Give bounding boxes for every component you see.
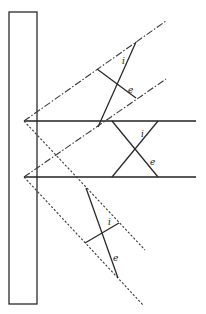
upper-label-e: e <box>128 85 133 95</box>
lower-dotted-ray-2 <box>24 177 143 305</box>
middle-label-e: e <box>150 157 155 167</box>
lower-dotted-ray-1 <box>24 121 145 250</box>
diagram-canvas: i e i e i e <box>0 0 206 314</box>
lower-label-i: i <box>108 217 111 227</box>
upper-dashdot-ray-2 <box>24 79 166 177</box>
lower-label-e: e <box>113 253 118 263</box>
upper-dashdot-ray-1 <box>24 21 166 121</box>
wall-rectangle <box>9 12 37 304</box>
upper-label-i: i <box>122 56 125 66</box>
middle-label-i: i <box>141 129 144 139</box>
lower-perpendicular-i <box>85 223 119 243</box>
